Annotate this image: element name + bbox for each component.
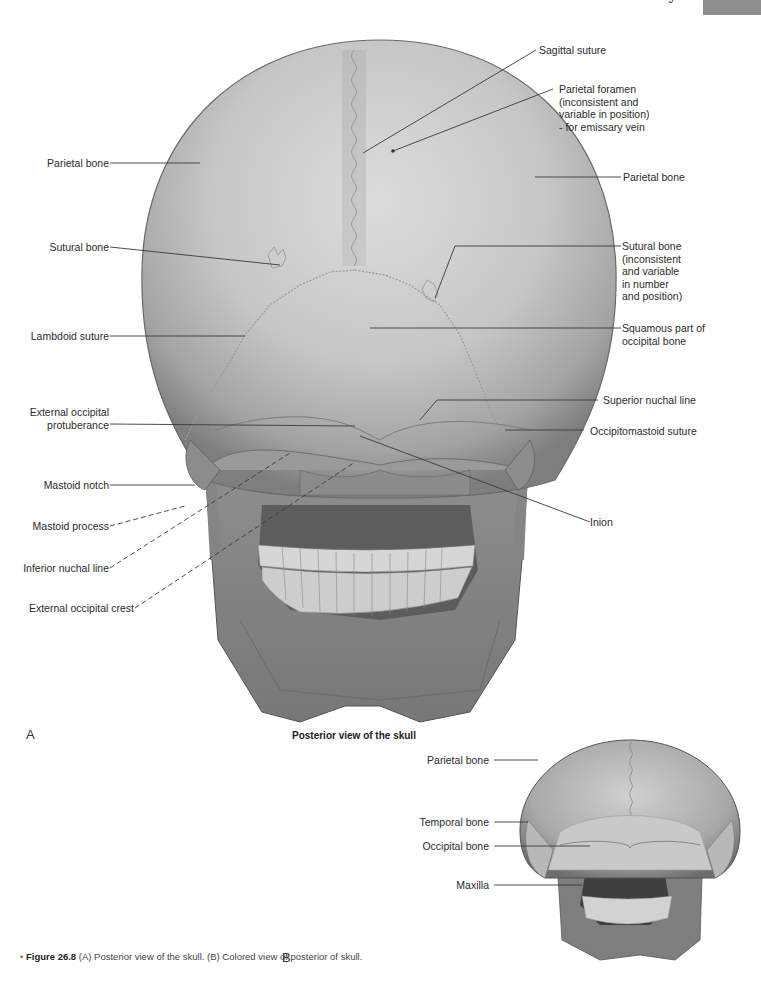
label-parietal-bone-right: Parietal bone (623, 171, 685, 184)
label-mastoid-process: Mastoid process (33, 520, 109, 533)
label-inferior-nuchal-line: Inferior nuchal line (23, 562, 109, 575)
label-superior-nuchal-line: Superior nuchal line (603, 394, 696, 407)
label-external-occipital-crest: External occipital crest (29, 602, 134, 615)
label-sagittal-suture: Sagittal suture (539, 44, 606, 57)
skull-b (520, 740, 740, 960)
figure-a-letter: A (26, 727, 35, 742)
label-maxilla-b: Maxilla (456, 879, 489, 892)
label-temporal-bone-b: Temporal bone (420, 816, 489, 829)
caption-bullet: • (20, 951, 23, 962)
label-sutural-bone-left: Sutural bone (49, 241, 109, 254)
label-inion: Inion (590, 516, 613, 529)
skull-a (142, 40, 616, 722)
label-parietal-foramen: Parietal foramen (inconsistent and varia… (559, 83, 649, 133)
caption-figure-number: Figure 26.8 (26, 951, 76, 962)
label-occipitomastoid-suture: Occipitomastoid suture (590, 425, 697, 438)
figure-caption: • Figure 26.8 (A) Posterior view of the … (20, 951, 362, 962)
label-squamous-part: Squamous part of occipital bone (622, 322, 705, 347)
label-parietal-bone-b: Parietal bone (427, 754, 489, 767)
caption-text: (A) Posterior view of the skull. (B) Col… (76, 951, 362, 962)
label-lambdoid-suture: Lambdoid suture (31, 330, 109, 343)
label-occipital-bone-b: Occipital bone (422, 840, 489, 853)
skull-illustration (0, 0, 761, 988)
label-parietal-bone-left: Parietal bone (47, 157, 109, 170)
figure-a-title: Posterior view of the skull (292, 730, 416, 741)
label-mastoid-notch: Mastoid notch (44, 479, 109, 492)
label-sutural-bone-right: Sutural bone (inconsistent and variable … (622, 240, 682, 303)
label-external-occipital-protuberance: External occipital protuberance (30, 406, 109, 431)
